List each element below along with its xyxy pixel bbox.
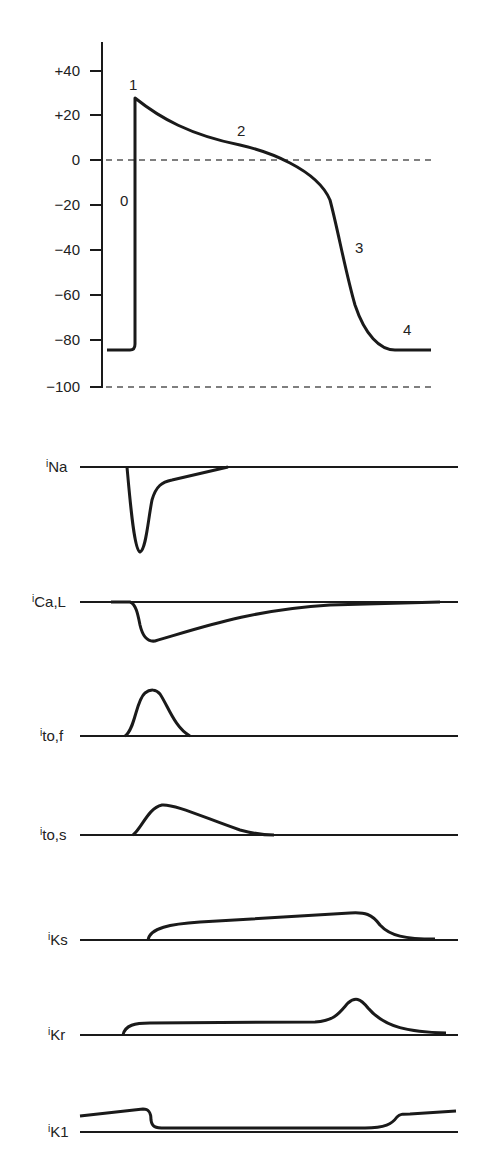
phase-label-2: 2 bbox=[237, 122, 245, 139]
current-label: iCa,L bbox=[32, 593, 66, 610]
current-label: iNa bbox=[46, 458, 68, 475]
tick-label: +20 bbox=[55, 106, 80, 123]
tick-label: 0 bbox=[72, 151, 80, 168]
phase-label-1: 1 bbox=[129, 76, 137, 93]
action-potential-figure: +40 +20 0 −20 −40 −60 −80 −100 0 1 2 3 4… bbox=[0, 0, 477, 1160]
current-iNa: iNa bbox=[46, 458, 458, 552]
tick-label: −100 bbox=[46, 378, 80, 395]
current-label: iKs bbox=[48, 931, 68, 948]
current-label: ito,f bbox=[40, 727, 64, 744]
action-potential-trace bbox=[107, 98, 431, 350]
current-iCaL: iCa,L bbox=[32, 593, 458, 641]
current-label: iKr bbox=[48, 1026, 65, 1043]
phase-label-4: 4 bbox=[403, 321, 411, 338]
tick-label: −80 bbox=[55, 331, 80, 348]
phase-label-3: 3 bbox=[355, 239, 363, 256]
tick-label: −40 bbox=[55, 241, 80, 258]
tick-label: −60 bbox=[55, 286, 80, 303]
y-tick-labels: +40 +20 0 −20 −40 −60 −80 −100 bbox=[46, 62, 80, 395]
current-label: iK1 bbox=[48, 1123, 69, 1140]
current-label: ito,s bbox=[40, 826, 66, 843]
current-iKr: iKr bbox=[48, 999, 458, 1043]
y-ticks bbox=[90, 71, 102, 387]
current-itos: ito,s bbox=[40, 805, 458, 843]
action-potential-panel: +40 +20 0 −20 −40 −60 −80 −100 0 1 2 3 4 bbox=[46, 42, 432, 395]
current-iKs: iKs bbox=[48, 913, 458, 948]
current-iK1: iK1 bbox=[48, 1109, 458, 1140]
phase-label-0: 0 bbox=[120, 192, 128, 209]
current-itof: ito,f bbox=[40, 690, 458, 744]
tick-label: −20 bbox=[55, 196, 80, 213]
tick-label: +40 bbox=[55, 62, 80, 79]
